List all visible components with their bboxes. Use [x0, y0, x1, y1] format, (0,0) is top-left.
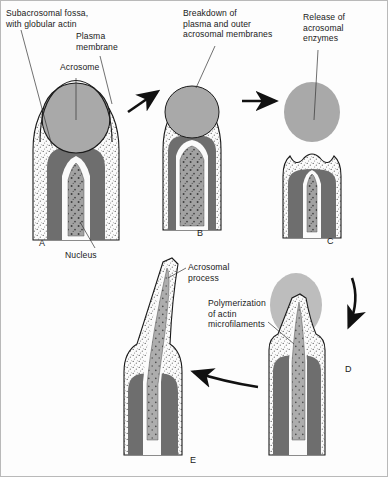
- label-nucleus: Nucleus: [65, 250, 97, 261]
- panel-letter-d: D: [345, 364, 352, 374]
- label-subacrosomal-fossa: Subacrosomal fossa, with globular actin: [6, 8, 88, 29]
- panel-letter-a: A: [39, 238, 45, 248]
- panel-b-acrosome: [165, 86, 219, 138]
- label-plasma-membrane: Plasma membrane: [76, 31, 118, 52]
- panel-letter-e: E: [190, 455, 196, 465]
- panel-letter-b: B: [197, 228, 203, 238]
- leader-breakdown-membranes: [196, 46, 215, 88]
- acrosome-reaction-figure: Subacrosomal fossa, with globular actin …: [0, 0, 388, 477]
- panel-d-diagram: [268, 273, 325, 455]
- panel-c-released-acrosome: [284, 82, 340, 142]
- arrow-a-to-b: [128, 92, 157, 112]
- panel-c-diagram: [283, 50, 341, 238]
- arrow-c-to-d: [349, 278, 355, 326]
- panel-b-subacrosomal-fossa: [180, 146, 204, 226]
- panel-e-diagram: [124, 258, 186, 455]
- label-acrosomal-process: Acrosomal process: [188, 262, 230, 283]
- label-release-enzymes: Release of acrosomal enzymes: [303, 12, 345, 44]
- label-polymerization-actin: Polymerization of actin microfilaments: [208, 298, 266, 330]
- panel-c-subacrosomal-fossa: [307, 174, 317, 232]
- panel-b-diagram: [163, 46, 221, 230]
- label-breakdown-membranes: Breakdown of plasma and outer acrosomal …: [183, 8, 272, 40]
- label-acrosome: Acrosome: [60, 62, 100, 73]
- arrow-d-to-e: [194, 372, 258, 387]
- panel-letter-c: C: [327, 236, 334, 246]
